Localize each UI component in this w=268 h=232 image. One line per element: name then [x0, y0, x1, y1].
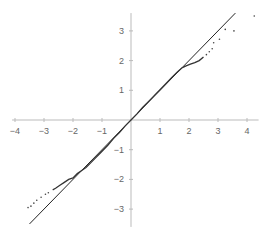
y-tick-label: 2	[119, 56, 124, 66]
data-point	[213, 42, 215, 44]
qq-plot: −4−3−2−11234 −3−2−1123	[0, 0, 268, 232]
data-point	[253, 15, 255, 17]
data-point	[45, 193, 47, 195]
x-tick-label: −2	[68, 126, 78, 136]
y-tick-label: −1	[114, 145, 124, 155]
sample-quantile-curve	[53, 57, 204, 190]
data-point	[27, 207, 29, 209]
data-point	[224, 29, 226, 31]
x-tick-label: 4	[244, 126, 249, 136]
x-tick-label: 3	[215, 126, 220, 136]
x-tick-label: 2	[186, 126, 191, 136]
data-point	[30, 205, 32, 207]
data-point	[36, 199, 38, 201]
axes: −4−3−2−11234 −3−2−1123	[10, 13, 259, 227]
data-point	[48, 192, 50, 194]
data-point	[40, 196, 42, 198]
data-point	[33, 202, 35, 204]
y-tick-label: −3	[114, 204, 124, 214]
data-point	[211, 48, 213, 50]
x-tick-label: −4	[10, 126, 20, 136]
x-tick-label: −1	[97, 126, 107, 136]
x-tick-label: 1	[157, 126, 162, 136]
y-tick-label: 3	[119, 26, 124, 36]
data-series	[27, 15, 255, 208]
x-tick-label: −3	[39, 126, 49, 136]
data-point	[206, 54, 208, 56]
data-point	[219, 38, 221, 40]
data-point	[233, 30, 235, 32]
y-tick-label: 1	[119, 85, 124, 95]
y-tick-label: −2	[114, 174, 124, 184]
data-point	[209, 51, 211, 53]
